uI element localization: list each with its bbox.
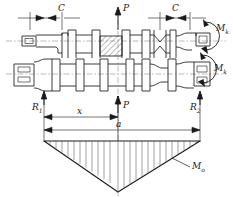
lower-shaft-view [14, 59, 210, 91]
dimension-a-label: a [116, 120, 121, 129]
dimension-x-label: x [77, 107, 82, 116]
load-top-label: P [123, 4, 129, 13]
reaction-right-label: R2 [190, 103, 201, 114]
load-bottom-label: P [123, 101, 129, 110]
moment-label: Mo [192, 162, 205, 173]
clearance-left-label: C [58, 4, 65, 13]
dimension-c-left [18, 12, 80, 30]
reaction-left-label: R1 [32, 103, 43, 114]
dimension-c-right [148, 12, 206, 30]
upper-shaft-view [22, 30, 210, 58]
moment-diagram [44, 141, 200, 192]
figure-root: C C P P Mk Mk R1 R2 x a Mo [0, 0, 233, 197]
torque-upper-label: Mk [216, 24, 229, 35]
dimension-a [44, 96, 200, 142]
clearance-right-label: C [172, 4, 179, 13]
torque-lower-label: Mk [214, 64, 227, 75]
load-arrow-top [115, 7, 121, 30]
dimension-x [44, 96, 118, 142]
